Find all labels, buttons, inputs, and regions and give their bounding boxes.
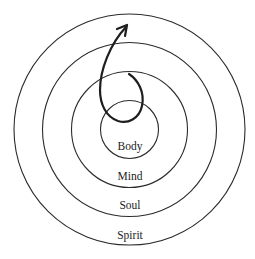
label-soul: Soul <box>119 199 140 211</box>
label-body: Body <box>118 140 143 153</box>
spiral-arrow-icon <box>100 25 143 122</box>
concentric-diagram: Body Mind Soul Spirit <box>0 0 255 259</box>
label-spirit: Spirit <box>117 229 143 242</box>
ring-soul <box>43 43 217 217</box>
label-mind: Mind <box>118 170 143 182</box>
diagram-canvas: Body Mind Soul Spirit <box>0 0 255 259</box>
